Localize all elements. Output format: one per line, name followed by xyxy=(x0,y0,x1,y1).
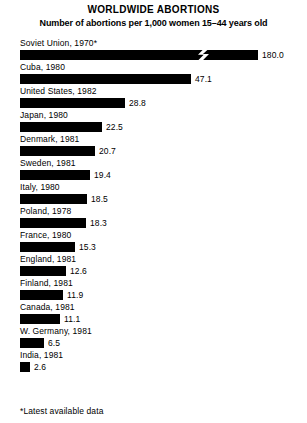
bar-value-label: 2.6 xyxy=(34,362,46,372)
bar-rect xyxy=(20,362,30,372)
bar-category-label: France, 1980 xyxy=(20,230,307,241)
bar-category-label: India, 1981 xyxy=(20,350,307,361)
bar-row: Japan, 198022.5 xyxy=(20,110,307,134)
bar-value-label: 11.9 xyxy=(67,290,83,300)
bar-rect xyxy=(20,50,258,60)
bar-line: 2.6 xyxy=(20,361,307,372)
worldwide-abortions-chart: WORLDWIDE ABORTIONS Number of abortions … xyxy=(0,0,307,423)
bar-rect xyxy=(20,98,125,108)
bar-category-label: Poland, 1978 xyxy=(20,206,307,217)
bar-rect xyxy=(20,266,66,276)
bar-line: 18.5 xyxy=(20,193,307,204)
axis-break-zigzag-icon xyxy=(198,49,209,61)
bar-rect xyxy=(20,338,44,348)
bar-category-label: Japan, 1980 xyxy=(20,110,307,121)
bar-row: Canada, 198111.1 xyxy=(20,302,307,326)
bar-category-label: Soviet Union, 1970* xyxy=(20,38,307,49)
bar-row: Poland, 197818.3 xyxy=(20,206,307,230)
bar-line: 11.1 xyxy=(20,313,307,324)
bar-value-label: 18.3 xyxy=(90,218,107,228)
bar-row: United States, 198228.8 xyxy=(20,86,307,110)
bar-category-label: Finland, 1981 xyxy=(20,278,307,289)
bar-row: India, 19812.6 xyxy=(20,350,307,374)
bar-category-label: Italy, 1980 xyxy=(20,182,307,193)
bar-row: Cuba, 198047.1 xyxy=(20,62,307,86)
bar-line: 28.8 xyxy=(20,97,307,108)
bar-rect xyxy=(20,218,86,228)
bar-category-label: England, 1981 xyxy=(20,254,307,265)
bar-line: 22.5 xyxy=(20,121,307,132)
chart-footnote: *Latest available data xyxy=(20,406,103,416)
bar-category-label: United States, 1982 xyxy=(20,86,307,97)
bar-line: 6.5 xyxy=(20,337,307,348)
bar-category-label: Denmark, 1981 xyxy=(20,134,307,145)
bar-value-label: 18.5 xyxy=(91,194,108,204)
bar-value-label: 15.3 xyxy=(79,242,96,252)
bar-rect xyxy=(20,122,102,132)
title-block: WORLDWIDE ABORTIONS Number of abortions … xyxy=(0,0,307,29)
bar-row: Sweden, 198119.4 xyxy=(20,158,307,182)
bar-rect xyxy=(20,146,95,156)
bar-line: 47.1 xyxy=(20,73,307,84)
bar-row: France, 198015.3 xyxy=(20,230,307,254)
bar-rect xyxy=(20,194,87,204)
bar-line: 180.0 xyxy=(20,49,307,60)
bar-row: Italy, 198018.5 xyxy=(20,182,307,206)
bar-line: 12.6 xyxy=(20,265,307,276)
bar-row: W. Germany, 19816.5 xyxy=(20,326,307,350)
chart-subtitle: Number of abortions per 1,000 women 15–4… xyxy=(0,17,307,29)
bar-value-label: 12.6 xyxy=(70,266,87,276)
bar-list: Soviet Union, 1970*180.0Cuba, 198047.1Un… xyxy=(20,38,307,374)
bar-line: 19.4 xyxy=(20,169,307,180)
bar-category-label: Cuba, 1980 xyxy=(20,62,307,73)
bar-value-label: 22.5 xyxy=(106,122,123,132)
bar-rect xyxy=(20,242,75,252)
bar-row: Denmark, 198120.7 xyxy=(20,134,307,158)
bar-value-label: 11.1 xyxy=(64,314,80,324)
bar-value-label: 47.1 xyxy=(195,74,212,84)
bar-line: 15.3 xyxy=(20,241,307,252)
bar-rect xyxy=(20,170,90,180)
bar-line: 18.3 xyxy=(20,217,307,228)
bar-rect xyxy=(20,314,60,324)
bar-value-label: 20.7 xyxy=(99,146,116,156)
bar-row: Finland, 198111.9 xyxy=(20,278,307,302)
bar-rect xyxy=(20,290,63,300)
bar-value-label: 6.5 xyxy=(48,338,60,348)
bar-row: Soviet Union, 1970*180.0 xyxy=(20,38,307,62)
bar-value-label: 180.0 xyxy=(262,50,284,60)
bar-line: 20.7 xyxy=(20,145,307,156)
bar-category-label: W. Germany, 1981 xyxy=(20,326,307,337)
bar-category-label: Canada, 1981 xyxy=(20,302,307,313)
bar-category-label: Sweden, 1981 xyxy=(20,158,307,169)
chart-title: WORLDWIDE ABORTIONS xyxy=(0,4,307,16)
bar-value-label: 28.8 xyxy=(129,98,146,108)
bar-line: 11.9 xyxy=(20,289,307,300)
bar-row: England, 198112.6 xyxy=(20,254,307,278)
bar-rect xyxy=(20,74,191,84)
bar-value-label: 19.4 xyxy=(94,170,111,180)
